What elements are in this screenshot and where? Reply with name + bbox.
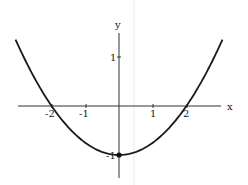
x-tick-label-1: 1 (150, 108, 156, 119)
y-tick-label-1: 1 (110, 52, 116, 63)
x-tick-label-neg2: -2 (45, 108, 55, 119)
x-tick-label-2: 2 (183, 108, 189, 119)
y-axis-label: y (114, 19, 121, 30)
parabola-chart: x y -2 -1 1 2 1 -1 (0, 0, 248, 185)
vertex-point (116, 152, 121, 157)
y-tick-label-neg1: -1 (106, 150, 116, 161)
x-axis-label: x (227, 101, 233, 112)
x-tick-label-neg1: -1 (79, 108, 89, 119)
